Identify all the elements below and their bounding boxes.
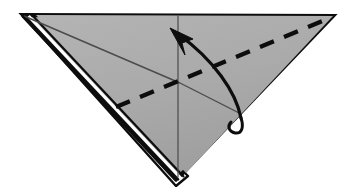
origami-diagram-figure: Origami step diagram: inverted triangle … — [0, 0, 349, 187]
origami-diagram-canvas: Origami step diagram: inverted triangle … — [0, 0, 349, 187]
